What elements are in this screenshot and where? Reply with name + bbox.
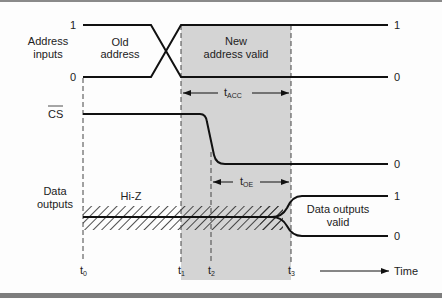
address-label-line2: inputs	[33, 48, 63, 60]
address-label-line1: Address	[28, 35, 69, 47]
address-left-low: 0	[70, 71, 76, 83]
cs-right-low: 0	[394, 158, 400, 170]
data-valid-line2: valid	[327, 216, 350, 228]
cs-label: CS	[48, 108, 63, 120]
old-address-line2: address	[100, 48, 140, 60]
address-left-high: 1	[70, 19, 76, 31]
t3-label: t3	[288, 264, 295, 277]
data-valid-line1: Data outputs	[307, 203, 370, 215]
timing-diagram-frame: Address inputs 1 0 1 0 CS 0 Data outputs…	[0, 0, 442, 299]
address-right-low: 0	[394, 71, 400, 83]
data-right-high: 1	[394, 190, 400, 202]
data-right-low: 0	[394, 230, 400, 242]
data-label-line1: Data	[43, 185, 67, 197]
data-label-line2: outputs	[37, 198, 74, 210]
new-address-line1: New	[225, 35, 247, 47]
hi-z-label: Hi-Z	[121, 190, 142, 202]
timing-diagram: Address inputs 1 0 1 0 CS 0 Data outputs…	[0, 0, 442, 299]
time-axis-label: Time	[394, 265, 418, 277]
bottom-border	[0, 293, 442, 298]
address-right-high: 1	[394, 19, 400, 31]
new-address-line2: address valid	[204, 48, 269, 60]
old-address-line1: Old	[111, 36, 128, 48]
address-valid-shaded-region	[181, 25, 291, 280]
t0-label: t0	[80, 264, 87, 277]
